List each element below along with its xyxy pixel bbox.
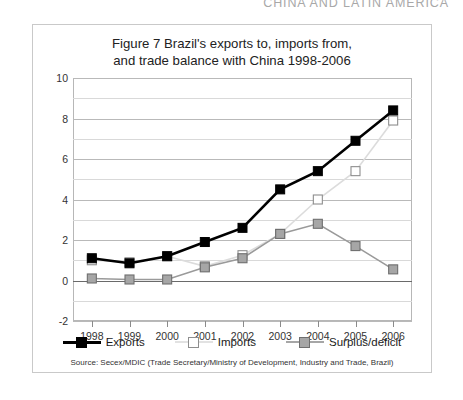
x-axis-tick — [92, 321, 93, 327]
legend-item[interactable]: Surplus/deficit — [286, 336, 401, 348]
series-line — [92, 110, 393, 263]
data-point-marker — [200, 263, 209, 272]
figure-title-line-2: and trade balance with China 1998-2006 — [33, 52, 431, 69]
y-axis-tick-label: 4 — [42, 194, 68, 206]
figure-title: Figure 7 Brazil's exports to, imports fr… — [33, 35, 431, 69]
y-axis-tick-label: 2 — [42, 234, 68, 246]
y-axis-tick-label: -2 — [42, 315, 68, 327]
data-point-marker — [313, 167, 322, 176]
legend-swatch — [63, 336, 101, 348]
data-point-marker — [87, 274, 96, 283]
x-axis-tick — [167, 321, 168, 327]
legend-marker — [76, 337, 87, 348]
legend-label: Exports — [106, 336, 145, 348]
x-axis-tick — [393, 321, 394, 327]
legend-marker — [188, 337, 199, 348]
data-point-marker — [163, 275, 172, 284]
chart-legend: ExportsImportsSurplus/deficit — [33, 336, 431, 348]
data-point-marker — [313, 219, 322, 228]
figure-title-line-1: Figure 7 Brazil's exports to, imports fr… — [33, 35, 431, 52]
data-point-marker — [351, 242, 360, 251]
y-axis-tick-label: 0 — [42, 275, 68, 287]
legend-item[interactable]: Imports — [175, 336, 256, 348]
series-layer — [73, 78, 412, 321]
legend-swatch — [286, 336, 324, 348]
data-point-marker — [200, 238, 209, 247]
data-point-marker — [389, 116, 398, 125]
data-point-marker — [238, 223, 247, 232]
legend-item[interactable]: Exports — [63, 336, 145, 348]
data-point-marker — [125, 275, 134, 284]
data-point-marker — [163, 252, 172, 261]
y-axis-tick-label: 6 — [42, 153, 68, 165]
y-axis-tick-label: 8 — [42, 113, 68, 125]
data-point-marker — [276, 185, 285, 194]
y-axis-tick-label: 10 — [42, 72, 68, 84]
data-point-marker — [125, 259, 134, 268]
legend-label: Surplus/deficit — [329, 336, 401, 348]
x-axis-tick — [205, 321, 206, 327]
legend-label: Imports — [218, 336, 256, 348]
figure-page: CHINA AND LATIN AMERICA Figure 7 Brazil'… — [0, 0, 463, 400]
data-point-marker — [238, 254, 247, 263]
x-axis-tick — [356, 321, 357, 327]
figure-frame: Figure 7 Brazil's exports to, imports fr… — [32, 24, 432, 373]
running-head: CHINA AND LATIN AMERICA — [263, 0, 449, 10]
source-note: Source: Secex/MDIC (Trade Secretary/Mini… — [33, 358, 431, 367]
data-point-marker — [87, 254, 96, 263]
x-axis-tick — [130, 321, 131, 327]
data-point-marker — [389, 106, 398, 115]
x-axis-tick — [280, 321, 281, 327]
data-point-marker — [351, 167, 360, 176]
data-point-marker — [389, 265, 398, 274]
data-point-marker — [276, 229, 285, 238]
series-line — [92, 121, 393, 267]
x-axis-tick — [243, 321, 244, 327]
legend-marker — [299, 337, 310, 348]
plot-wrapper: -20246810 199819992000200120022003200420… — [73, 78, 412, 321]
data-point-marker — [313, 195, 322, 204]
x-axis-tick — [318, 321, 319, 327]
legend-swatch — [175, 336, 213, 348]
data-point-marker — [351, 136, 360, 145]
